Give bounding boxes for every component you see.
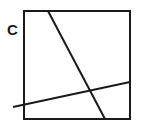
- steep-diagonal-line: [48, 11, 105, 119]
- figure-container: C: [0, 0, 141, 135]
- shallow-diagonal-line: [13, 82, 130, 107]
- figure-label-c: C: [7, 21, 18, 38]
- geometry-figure: C: [0, 0, 141, 135]
